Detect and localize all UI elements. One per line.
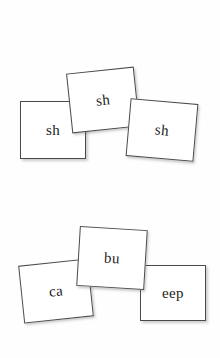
- word-card-sh-right[interactable]: sh: [126, 98, 199, 162]
- word-card-label: bu: [104, 250, 121, 266]
- word-card-label: ca: [48, 283, 64, 299]
- word-card-label: sh: [95, 92, 111, 108]
- word-card-eep[interactable]: eep: [140, 265, 206, 321]
- word-card-label: eep: [162, 286, 184, 301]
- word-card-label: sh: [46, 123, 60, 138]
- card-board: sh sh sh ca eep bu: [0, 0, 220, 358]
- word-card-bu[interactable]: bu: [76, 226, 148, 290]
- word-card-label: sh: [154, 122, 169, 138]
